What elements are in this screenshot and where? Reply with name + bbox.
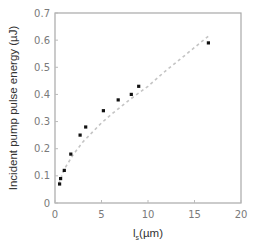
data-markers [58,41,210,185]
y-axis-title: Incident pump pulse energy (µJ) [7,26,19,191]
data-point [69,153,72,156]
data-point [59,177,62,180]
y-tick-label: 0.3 [34,116,50,127]
data-point [102,109,105,112]
y-tick-label: 0.7 [34,8,50,19]
y-tick-label: 0.4 [34,89,50,100]
x-tick-label: 10 [142,209,155,220]
y-tick-label: 0 [44,198,50,209]
fit-line [59,36,209,184]
data-point [137,85,140,88]
data-point [79,134,82,137]
x-axis-title: ls(µm) [133,227,163,241]
y-tick-label: 0.2 [34,143,50,154]
data-point [58,182,61,185]
x-tick-label: 0 [52,209,58,220]
y-tick-label: 0.5 [34,62,50,73]
y-tick-label: 0.6 [34,35,50,46]
data-point [207,41,210,44]
y-tick-label: 0.1 [34,170,50,181]
plot-frame [55,13,241,203]
data-point [63,169,66,172]
chart: 00.10.20.30.40.50.60.7 05101520 Incident… [0,0,262,249]
x-tick-label: 15 [188,209,201,220]
x-axis-title-unit: (µm) [139,227,163,239]
x-tick-label: 5 [98,209,104,220]
x-tick-label: 20 [235,209,248,220]
data-point [84,125,87,128]
data-point [130,93,133,96]
data-point [117,98,120,101]
